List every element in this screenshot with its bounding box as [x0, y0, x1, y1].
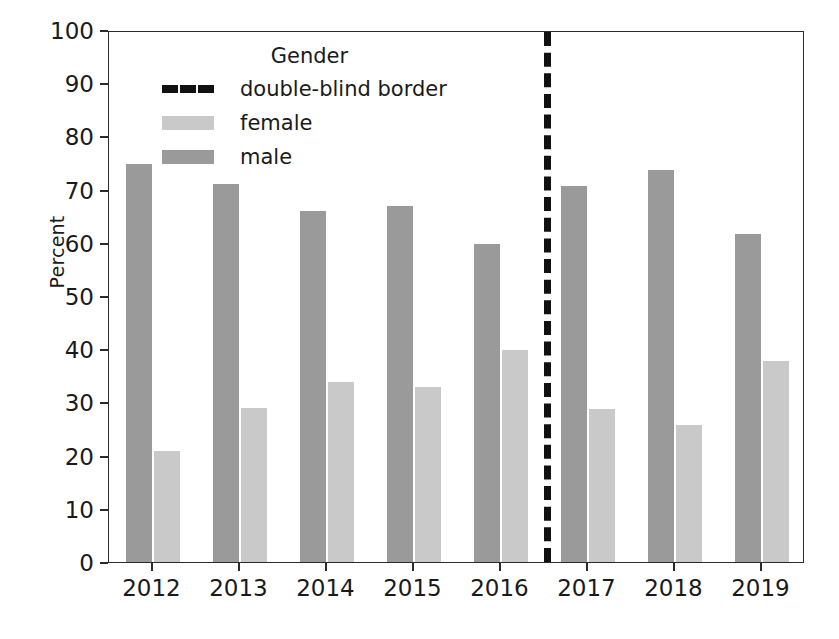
y-tick-label: 40	[65, 335, 94, 365]
y-tick-label: 10	[65, 495, 94, 525]
y-tick-label: 90	[65, 69, 94, 99]
x-tick-label: 2015	[363, 575, 463, 601]
legend-swatch-female	[162, 116, 214, 130]
bar-male-2019	[735, 234, 761, 562]
x-tick-label: 2016	[450, 575, 550, 601]
y-tick-label: 70	[65, 176, 94, 206]
y-tick-label: 50	[65, 282, 94, 312]
x-tick-label: 2019	[711, 575, 811, 601]
y-tick-mark	[100, 349, 108, 351]
legend-swatch-wrap	[162, 85, 226, 93]
x-tick-label: 2013	[189, 575, 289, 601]
legend-swatch-male	[162, 150, 214, 164]
legend-label: double-blind border	[240, 77, 447, 101]
y-tick-mark	[100, 402, 108, 404]
x-tick-mark	[151, 563, 153, 571]
bar-male-2016	[474, 244, 500, 562]
x-tick-mark	[499, 563, 501, 571]
legend-swatch-wrap	[162, 150, 226, 164]
bar-male-2014	[300, 211, 326, 562]
bar-male-2012	[126, 164, 152, 562]
bar-male-2013	[213, 184, 239, 562]
y-tick-mark	[100, 30, 108, 32]
legend-item-double-blind-border: double-blind border	[162, 72, 447, 106]
chart-figure: Percent 0102030405060708090100 201220132…	[0, 0, 839, 639]
y-tick-mark	[100, 296, 108, 298]
legend-swatch-wrap	[162, 116, 226, 130]
y-tick-mark	[100, 83, 108, 85]
y-tick-mark	[100, 190, 108, 192]
legend-title: Gender	[202, 44, 447, 68]
y-tick-mark	[100, 562, 108, 564]
x-tick-label: 2012	[102, 575, 202, 601]
chart-legend: Gender double-blind borderfemalemale	[158, 38, 457, 180]
x-tick-label: 2014	[276, 575, 376, 601]
y-tick-label: 60	[65, 229, 94, 259]
bar-female-2013	[241, 408, 267, 562]
x-tick-mark	[238, 563, 240, 571]
bar-female-2019	[763, 361, 789, 562]
x-tick-mark	[325, 563, 327, 571]
bar-female-2012	[154, 451, 180, 562]
y-tick-label: 0	[79, 548, 94, 578]
y-tick-label: 80	[65, 122, 94, 152]
x-tick-label: 2017	[537, 575, 637, 601]
bar-female-2015	[415, 387, 441, 562]
bar-male-2018	[648, 170, 674, 562]
y-tick-label: 20	[65, 442, 94, 472]
bar-male-2015	[387, 206, 413, 562]
y-tick-mark	[100, 243, 108, 245]
double-blind-border-line	[544, 32, 551, 562]
bar-female-2018	[676, 425, 702, 562]
legend-item-male: male	[162, 140, 447, 174]
legend-label: female	[240, 111, 312, 135]
bar-female-2016	[502, 350, 528, 562]
y-tick-mark	[100, 456, 108, 458]
legend-item-female: female	[162, 106, 447, 140]
bar-female-2014	[328, 382, 354, 562]
y-tick-label: 30	[65, 388, 94, 418]
y-tick-mark	[100, 136, 108, 138]
legend-swatch-double-blind-border	[162, 85, 214, 93]
x-tick-mark	[412, 563, 414, 571]
bar-female-2017	[589, 409, 615, 562]
y-tick-label: 100	[50, 16, 94, 46]
legend-entries: double-blind borderfemalemale	[162, 72, 447, 174]
bar-male-2017	[561, 186, 587, 562]
x-tick-mark	[760, 563, 762, 571]
x-tick-mark	[673, 563, 675, 571]
x-tick-mark	[586, 563, 588, 571]
legend-label: male	[240, 145, 292, 169]
y-tick-mark	[100, 509, 108, 511]
x-tick-label: 2018	[624, 575, 724, 601]
